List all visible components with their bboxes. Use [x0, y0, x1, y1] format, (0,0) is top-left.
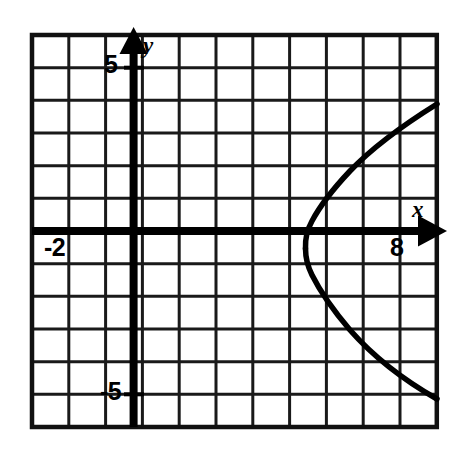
coordinate-plane	[0, 0, 461, 451]
y-axis-tick-label-neg5: -5	[100, 379, 121, 404]
y-axis-name-label: y	[143, 34, 153, 57]
graph-figure: 5 -5 -2 8 y x	[0, 0, 461, 451]
x-axis-name-label: x	[412, 198, 424, 221]
x-axis-tick-label-8: 8	[390, 235, 403, 260]
x-axis-tick-label-neg2: -2	[44, 235, 65, 260]
y-axis-tick-label-5: 5	[104, 52, 117, 77]
